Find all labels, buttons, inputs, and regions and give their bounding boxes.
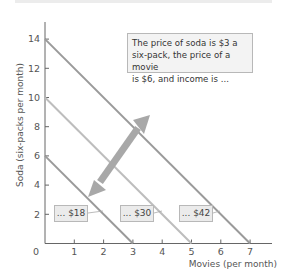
budget-line-18 (45, 156, 133, 244)
x-tick-label: 7 (247, 246, 253, 257)
shift-arrow-icon (88, 115, 150, 197)
x-tick-label: 5 (188, 246, 194, 257)
y-tick-label: 4 (34, 179, 40, 190)
income-label-18: ... $18 (54, 205, 88, 222)
info-line-3: is $6, and income is ... (132, 73, 248, 85)
x-tick-label: 3 (130, 246, 136, 257)
income-label-42: ... $42 (179, 205, 213, 222)
info-line-2: six-pack, the price of a movie (132, 49, 248, 73)
info-box: The price of soda is $3 a six-pack, the … (127, 33, 253, 73)
y-tick-label: 12 (28, 63, 40, 74)
x-tick-label: 6 (218, 246, 224, 257)
x-axis-title: Movies (per month) (189, 259, 277, 269)
x-tick-label: 4 (159, 246, 165, 257)
y-tick-label: 8 (34, 121, 40, 132)
info-line-1: The price of soda is $3 a (132, 37, 248, 49)
y-ticks (45, 39, 49, 214)
x-ticks (74, 240, 250, 244)
y-axis-title: Soda (six-packs per month) (15, 63, 25, 187)
x-tick-label: 1 (71, 246, 77, 257)
y-tick-label: 2 (34, 209, 40, 220)
y-tick-label: 10 (28, 92, 40, 103)
y-tick-label: 6 (34, 150, 40, 161)
income-label-30: ... $30 (120, 205, 154, 222)
y-tick-label: 14 (28, 33, 40, 44)
origin-label: 0 (33, 246, 39, 257)
x-tick-label: 2 (101, 246, 107, 257)
